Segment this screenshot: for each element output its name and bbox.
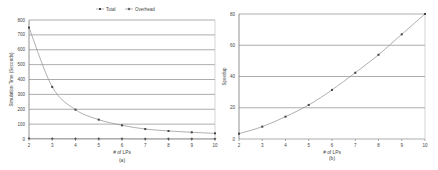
x-axis-label: # of LPs [113,150,131,155]
data-point-marker [401,33,403,35]
x-tick-label: 2 [238,143,241,148]
y-axis-label: Speedup [222,67,227,86]
data-point-marker [424,13,426,15]
data-point-marker [285,116,287,118]
x-tick-label: 7 [354,143,357,148]
y-tick-label: 200 [17,107,25,112]
y-tick-label: 40 [230,74,236,79]
x-tick-label: 5 [307,143,310,148]
x-tick-label: 8 [167,143,170,148]
series-line-total [29,28,215,134]
x-tick-label: 10 [422,143,428,148]
data-point-marker [354,72,356,74]
figure: 01002003004005006007008002345678910# of … [0,0,438,170]
legend-label: Total [106,7,116,12]
y-tick-label: 800 [17,18,25,23]
legend-marker [128,8,131,11]
x-tick-label: 2 [28,143,31,148]
data-point-marker [74,137,77,140]
y-axis-label: Simulation Time (Seconds) [9,52,14,106]
data-point-marker [261,126,263,128]
data-point-marker [191,131,193,133]
chart-caption: (b) [329,155,335,161]
x-tick-label: 10 [212,143,218,148]
legend-marker [99,8,101,10]
figure-canvas: 01002003004005006007008002345678910# of … [0,0,438,170]
x-tick-label: 9 [400,143,403,148]
y-tick-label: 20 [230,105,236,110]
y-tick-label: 600 [17,47,25,52]
chart-b: 0204060802345678910# of LPsSpeedup(b) [222,12,428,162]
x-tick-label: 9 [190,143,193,148]
data-point-marker [308,104,310,106]
data-point-marker [75,109,77,111]
data-point-marker [28,27,30,29]
data-point-marker [98,119,100,121]
y-tick-label: 0 [22,137,25,142]
x-tick-label: 3 [51,143,54,148]
x-tick-label: 6 [331,143,334,148]
chart-a: 01002003004005006007008002345678910# of … [9,7,218,164]
y-tick-label: 80 [230,12,236,17]
data-point-marker [121,124,123,126]
data-point-marker [214,137,217,140]
y-tick-label: 0 [232,137,235,142]
y-tick-label: 100 [17,122,25,127]
data-point-marker [121,137,124,140]
data-point-marker [144,137,147,140]
x-tick-label: 4 [74,143,77,148]
data-point-marker [51,86,53,88]
y-tick-label: 300 [17,92,25,97]
data-point-marker [238,133,240,135]
y-tick-label: 700 [17,32,25,37]
legend-label: Overhead [135,7,155,12]
data-point-marker [144,128,146,130]
data-point-marker [168,130,170,132]
data-point-marker [51,137,54,140]
x-tick-label: 6 [121,143,124,148]
x-tick-label: 5 [97,143,100,148]
series-line-speedup [239,14,425,134]
data-point-marker [190,137,193,140]
data-point-marker [214,132,216,134]
x-tick-label: 3 [261,143,264,148]
x-tick-label: 4 [284,143,287,148]
chart-caption: (a) [119,157,125,163]
y-tick-label: 500 [17,62,25,67]
data-point-marker [167,137,170,140]
y-tick-label: 400 [17,77,25,82]
data-point-marker [331,89,333,91]
data-point-marker [378,54,380,56]
y-tick-label: 60 [230,43,236,48]
data-point-marker [97,137,100,140]
x-tick-label: 7 [144,143,147,148]
legend: TotalOverhead [96,7,155,12]
x-tick-label: 8 [377,143,380,148]
data-point-marker [28,137,31,140]
